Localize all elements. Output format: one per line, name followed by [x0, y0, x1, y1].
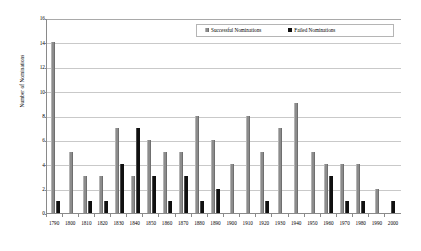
x-tick-label: 1950 [304, 221, 320, 235]
x-tick-label: 1990 [369, 221, 385, 235]
bar-successful [83, 176, 87, 213]
bar-successful [147, 140, 151, 213]
bar-failed [200, 201, 204, 213]
bar-group [176, 19, 192, 213]
x-tick-mark [240, 214, 256, 217]
x-tick-mark [353, 214, 369, 217]
bar-group [240, 19, 256, 213]
x-tick-label: 1900 [224, 221, 240, 235]
x-tick-label: 2000 [385, 221, 401, 235]
x-tick-label: 1930 [272, 221, 288, 235]
x-axis-labels: 1790180018101820183018401850186018701880… [46, 219, 401, 233]
x-tick-label: 1830 [111, 221, 127, 235]
x-tick-mark [175, 214, 191, 217]
bar-group [127, 19, 143, 213]
bar-group [256, 19, 272, 213]
x-tick-mark [191, 214, 207, 217]
bar-failed [168, 201, 172, 213]
x-tick-label: 1890 [207, 221, 223, 235]
bar-successful [163, 152, 167, 213]
y-tick-label: 2 [33, 187, 45, 192]
y-tick-label: 6 [33, 138, 45, 143]
x-tick-mark [207, 214, 223, 217]
x-tick-mark [111, 214, 127, 217]
bar-group [369, 19, 385, 213]
bar-groups [47, 19, 401, 213]
bar-successful [179, 152, 183, 213]
x-tick-label: 1840 [127, 221, 143, 235]
bar-successful [51, 42, 55, 213]
y-tick-label: 14 [33, 41, 45, 46]
bar-failed [329, 176, 333, 213]
x-tick-label: 1860 [159, 221, 175, 235]
x-tick-label: 1810 [78, 221, 94, 235]
bar-successful [294, 103, 298, 213]
x-axis-ticks [46, 214, 401, 217]
bar-group [111, 19, 127, 213]
x-tick-label: 1940 [288, 221, 304, 235]
failed-swatch-icon [288, 28, 292, 32]
x-tick-mark [46, 214, 62, 217]
bar-successful [246, 116, 250, 214]
x-tick-mark [94, 214, 110, 217]
successful-swatch-icon [205, 28, 209, 32]
bar-group [321, 19, 337, 213]
bar-failed [136, 128, 140, 213]
y-tick-label: 16 [33, 16, 45, 21]
bar-group [192, 19, 208, 213]
y-axis-title: Number of Nominations [19, 11, 25, 151]
bar-successful [260, 152, 264, 213]
bar-successful [311, 152, 315, 213]
bar-group [144, 19, 160, 213]
x-tick-label: 1870 [175, 221, 191, 235]
bar-successful [99, 176, 103, 213]
x-tick-label: 1880 [191, 221, 207, 235]
x-tick-mark [288, 214, 304, 217]
bar-successful [356, 164, 360, 213]
bar-group [305, 19, 321, 213]
bar-group [79, 19, 95, 213]
x-tick-label: 1960 [320, 221, 336, 235]
x-tick-mark [224, 214, 240, 217]
x-tick-label: 1970 [337, 221, 353, 235]
chart-legend: Successful Nominations Failed Nomination… [196, 24, 394, 37]
bar-failed [104, 201, 108, 213]
y-tick-label: 8 [33, 114, 45, 119]
bar-failed [152, 176, 156, 213]
bar-successful [278, 128, 282, 213]
x-tick-mark [62, 214, 78, 217]
x-tick-mark [304, 214, 320, 217]
plot-area: 0246810121416 [46, 19, 401, 214]
bar-successful [69, 152, 73, 213]
y-tick-label: 0 [33, 211, 45, 216]
bar-successful [324, 164, 328, 213]
bar-failed [184, 176, 188, 213]
bar-failed [345, 201, 349, 213]
x-tick-mark [256, 214, 272, 217]
y-tick-label: 12 [33, 65, 45, 70]
bar-failed [391, 201, 395, 213]
bar-group [47, 19, 63, 213]
x-tick-label: 1820 [94, 221, 110, 235]
bar-successful [340, 164, 344, 213]
bar-group [272, 19, 288, 213]
x-tick-label: 1800 [62, 221, 78, 235]
bar-group [288, 19, 304, 213]
y-tick-label: 4 [33, 163, 45, 168]
x-tick-label: 1790 [46, 221, 62, 235]
bar-group [337, 19, 353, 213]
x-tick-label: 1980 [353, 221, 369, 235]
x-tick-mark [78, 214, 94, 217]
legend-item-failed: Failed Nominations [288, 28, 335, 33]
x-tick-mark [272, 214, 288, 217]
x-tick-mark [320, 214, 336, 217]
bar-failed [56, 201, 60, 213]
x-tick-mark [127, 214, 143, 217]
bar-group [353, 19, 369, 213]
x-tick-label: 1850 [143, 221, 159, 235]
legend-item-successful: Successful Nominations [205, 28, 261, 33]
bar-successful [230, 164, 234, 213]
bar-group [160, 19, 176, 213]
x-tick-mark [369, 214, 385, 217]
bar-failed [120, 164, 124, 213]
